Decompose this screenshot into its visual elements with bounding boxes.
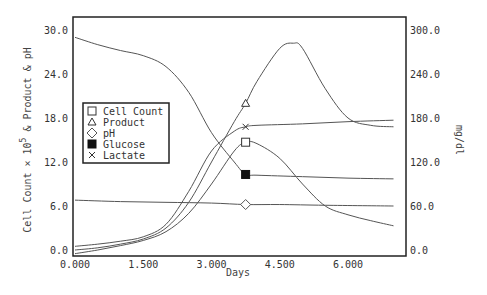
left-y-ticks: 0.06.012.018.024.030.0 [44,25,68,256]
filled-square-icon [88,140,96,148]
y2-tick-label: 120.0 [410,157,440,168]
legend-label: Glucose [103,139,145,150]
y-tick-label: 0.0 [50,245,68,256]
x-tick-label: 0.000 [60,259,90,270]
y-tick-label: 6.0 [50,201,68,212]
open-triangle-icon [242,99,250,106]
right-y-ticks: 0.060.0120.0180.0240.0300.0 [410,25,440,256]
x-ticks: 0.0001.5003.0004.5006.000 [60,259,363,270]
series-line-ph [75,200,394,206]
y-tick-label: 24.0 [44,69,68,80]
x-tick-label: 6.000 [333,259,363,270]
y2-tick-label: 300.0 [410,25,440,36]
filled-square-icon [242,170,250,178]
y2-tick-label: 240.0 [410,69,440,80]
x-tick-label: 3.000 [196,259,226,270]
open-diamond-icon [241,200,251,210]
legend-label: Product [103,117,145,128]
y2-tick-label: 60.0 [410,201,434,212]
y-tick-label: 30.0 [44,25,68,36]
legend-label: pH [103,128,115,139]
y-tick-label: 12.0 [44,157,68,168]
y-tick-label: 18.0 [44,113,68,124]
right-y-axis-label: mg/dl [454,125,465,155]
y2-tick-label: 0.0 [410,245,428,256]
y2-tick-label: 180.0 [410,113,440,124]
legend-label: Cell Count [103,106,163,117]
x-tick-label: 4.500 [265,259,295,270]
left-y-axis-label: Cell Count × 105 & Product & pH [19,47,33,232]
series-markers [241,99,251,209]
x-axis-label: Days [226,267,250,278]
legend-label: Lactate [103,150,145,161]
legend: Cell CountProductpHGlucoseLactate [83,103,169,163]
open-square-icon [88,107,96,115]
x-tick-label: 1.500 [128,259,158,270]
open-square-icon [242,138,250,146]
bioreactor-chart: 0.06.012.018.024.030.0 0.060.0120.0180.0… [0,0,487,295]
